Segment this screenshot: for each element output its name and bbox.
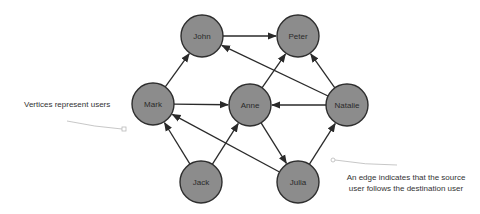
edge-natalie-to-peter bbox=[311, 54, 335, 88]
node-mark: Mark bbox=[132, 83, 174, 125]
edge-jack-to-anne bbox=[212, 124, 238, 165]
node-label: Julia bbox=[290, 178, 307, 187]
edge-jack-to-mark bbox=[165, 123, 190, 164]
node-natalie: Natalie bbox=[326, 84, 368, 126]
annotation-pointer-line bbox=[67, 121, 122, 129]
edge-note: An edge indicates that the sourceuser fo… bbox=[331, 158, 466, 193]
annotation-text: user follows the destination user bbox=[349, 184, 464, 193]
node-label: Natalie bbox=[335, 101, 360, 110]
annotation-anchor-circle-icon bbox=[331, 158, 335, 162]
edge-julia-to-mark bbox=[172, 114, 279, 172]
social-graph-diagram: Vertices represent usersAn edge indicate… bbox=[0, 0, 480, 214]
node-label: John bbox=[193, 32, 210, 41]
node-label: Jack bbox=[193, 178, 210, 187]
node-jack: Jack bbox=[180, 161, 222, 203]
annotation-text: An edge indicates that the source bbox=[347, 173, 466, 182]
edge-mark-to-john bbox=[165, 54, 189, 87]
node-label: Peter bbox=[288, 32, 307, 41]
annotation-text: Vertices represent users bbox=[24, 100, 110, 109]
node-john: John bbox=[181, 15, 223, 57]
node-peter: Peter bbox=[277, 15, 319, 57]
edge-anne-to-julia bbox=[261, 123, 286, 164]
edge-mark-to-anne bbox=[174, 104, 228, 105]
vertices-note: Vertices represent users bbox=[24, 100, 126, 132]
annotation-pointer-line bbox=[335, 160, 397, 165]
annotation-anchor-square-icon bbox=[122, 127, 126, 131]
node-julia: Julia bbox=[277, 161, 319, 203]
node-label: Anne bbox=[241, 101, 260, 110]
edge-julia-to-natalie bbox=[309, 124, 335, 165]
node-label: Mark bbox=[144, 100, 163, 109]
edge-anne-to-peter bbox=[262, 54, 285, 88]
nodes-layer: JohnPeterMarkAnneNatalieJackJulia bbox=[132, 15, 368, 203]
node-anne: Anne bbox=[229, 84, 271, 126]
